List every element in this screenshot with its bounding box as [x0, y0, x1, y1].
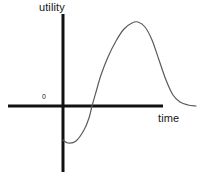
chart-background [0, 0, 201, 176]
utility-over-time-chart: utility time 0 [0, 0, 201, 176]
origin-tick-label: 0 [42, 93, 46, 100]
y-axis-label: utility [39, 1, 65, 13]
x-axis-label: time [158, 112, 179, 124]
chart-canvas [0, 0, 201, 176]
